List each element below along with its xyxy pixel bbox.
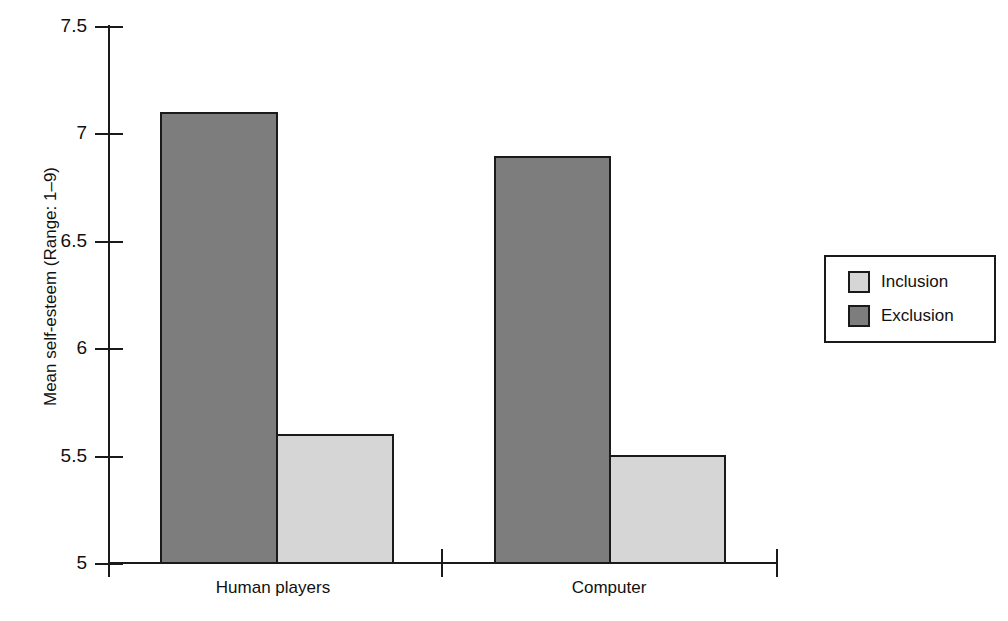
y-tick-mark — [95, 241, 123, 243]
x-group-label-computer: Computer — [509, 578, 709, 598]
y-tick-label: 5.5 — [0, 446, 87, 465]
legend-label-inclusion: Inclusion — [881, 271, 948, 293]
bar-human-players-inclusion — [276, 434, 394, 564]
y-axis-title: Mean self-esteem (Range: 1–9) — [42, 87, 59, 487]
legend-swatch-inclusion-icon — [848, 271, 870, 293]
y-tick-label: 6 — [0, 338, 87, 357]
y-tick-label: 7.5 — [0, 16, 87, 35]
bar-computer-inclusion — [609, 455, 726, 564]
y-axis-line — [108, 25, 110, 564]
x-tick-middle — [441, 549, 443, 577]
y-tick-label: 6.5 — [0, 231, 87, 250]
y-tick-mark — [95, 348, 123, 350]
y-tick-label: 5 — [0, 553, 87, 572]
x-tick-left — [108, 549, 110, 577]
y-tick-mark — [95, 133, 123, 135]
legend-swatch-exclusion-icon — [848, 305, 870, 327]
x-group-label-human-players: Human players — [173, 578, 373, 598]
legend-label-exclusion: Exclusion — [881, 305, 954, 327]
legend: Inclusion Exclusion — [824, 255, 996, 343]
x-tick-right — [776, 549, 778, 577]
bar-chart-figure: Mean self-esteem (Range: 1–9) 7.5 7 6.5 … — [0, 0, 1008, 621]
y-tick-mark — [95, 456, 123, 458]
bar-computer-exclusion — [494, 156, 611, 564]
x-axis-line — [108, 562, 778, 564]
legend-item-exclusion: Exclusion — [848, 305, 954, 327]
y-tick-mark — [95, 26, 123, 28]
legend-item-inclusion: Inclusion — [848, 271, 948, 293]
bar-human-players-exclusion — [160, 112, 278, 564]
y-tick-label: 7 — [0, 123, 87, 142]
